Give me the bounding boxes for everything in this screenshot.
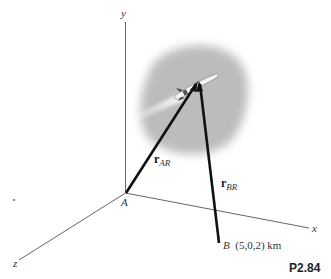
stray-dot	[13, 199, 15, 201]
point-b-coords: (5,0,2) km	[235, 239, 281, 251]
z-axis	[19, 193, 126, 260]
vector-r-ar-subscript: AR	[159, 158, 170, 168]
problem-label: P2.84	[289, 262, 320, 274]
vector-r-ar-label: rAR	[154, 153, 170, 168]
y-axis-label: y	[121, 8, 126, 19]
point-b-label: B (5,0,2) km	[223, 240, 281, 251]
point-b-name: B	[223, 239, 230, 251]
diagram-canvas	[0, 0, 331, 279]
vector-r-br-label: rBR	[221, 177, 237, 192]
x-axis-label: x	[312, 223, 317, 234]
vector-r-br-subscript: BR	[226, 182, 237, 192]
z-axis-label: z	[13, 258, 17, 269]
point-a-label: A	[121, 197, 128, 208]
cloud-shape	[128, 46, 248, 155]
